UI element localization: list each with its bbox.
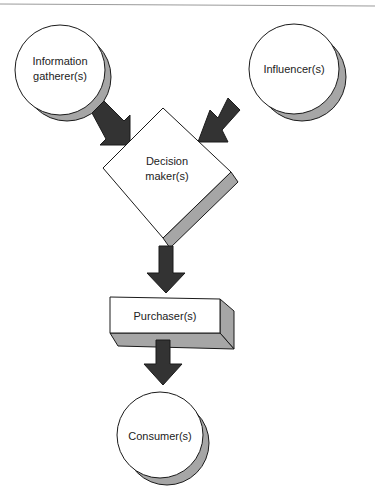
buying-center-diagram: Information gatherer(s) Influencer(s) De… — [0, 0, 375, 498]
node-label-line1: Information — [32, 55, 87, 67]
node-influencer: Influencer(s) — [249, 24, 346, 121]
node-information-gatherer: Information gatherer(s) — [15, 25, 111, 121]
node-label-line1: Influencer(s) — [263, 63, 324, 75]
node-label-line1: Purchaser(s) — [134, 310, 197, 322]
node-label-line2: gatherer(s) — [33, 70, 87, 82]
node-label-line2: maker(s) — [145, 170, 188, 182]
arrow-down-icon — [147, 246, 185, 293]
arrow-down-right-icon — [92, 101, 130, 145]
node-purchaser: Purchaser(s) — [110, 297, 234, 349]
node-label-line1: Decision — [146, 155, 188, 167]
node-consumer: Consumer(s) — [117, 392, 209, 485]
node-label-line1: Consumer(s) — [128, 430, 192, 442]
arrow-down-left-icon — [198, 98, 240, 142]
top-rule — [0, 4, 375, 6]
box-bottom — [110, 333, 234, 349]
